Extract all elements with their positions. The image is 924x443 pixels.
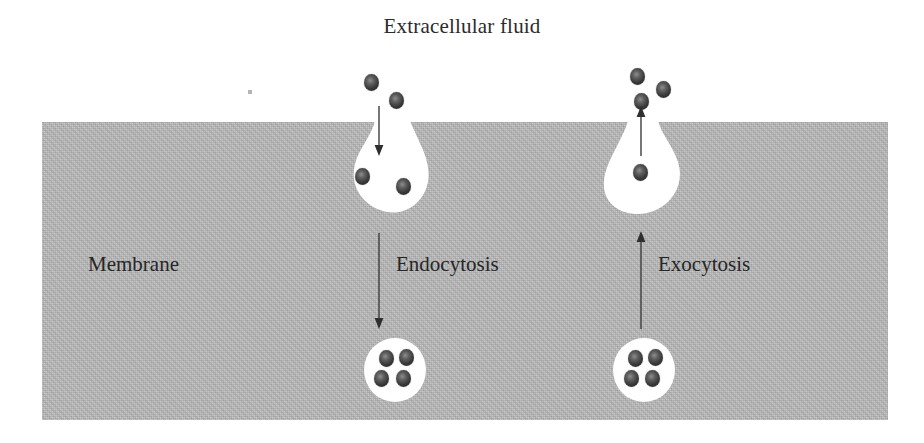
- exocytosis-long-arrow-icon: [634, 231, 648, 329]
- particle-extracellular: [630, 68, 645, 85]
- membrane-label: Membrane: [88, 252, 179, 277]
- endocytosis-short-arrow-icon: [372, 106, 386, 158]
- particle-in-vesicle: [645, 370, 660, 387]
- scan-artifact-speck: [248, 90, 252, 94]
- endocytosis-long-arrow-icon: [372, 233, 386, 331]
- particle-extracellular: [656, 81, 671, 98]
- particle-extracellular: [389, 92, 404, 109]
- particle-in-vesicle: [379, 350, 394, 367]
- endocytosis-vesicle: [364, 338, 426, 402]
- process-label-endocytosis: Endocytosis: [396, 252, 499, 277]
- particle-in-vesicle: [624, 370, 639, 387]
- particle-in-vesicle: [648, 349, 663, 366]
- endocytosis-exocytosis-diagram: Extracellular fluid Membrane: [0, 0, 924, 443]
- particle-in-vesicle: [628, 350, 643, 367]
- diagram-title: Extracellular fluid: [0, 14, 924, 39]
- exocytosis-short-arrow-icon: [634, 106, 648, 156]
- particle-in-pouch: [355, 168, 370, 185]
- particle-in-pouch: [633, 164, 648, 181]
- particle-in-vesicle: [374, 370, 389, 387]
- particle-in-vesicle: [396, 370, 411, 387]
- particle-in-vesicle: [399, 349, 414, 366]
- particle-in-pouch: [396, 178, 411, 195]
- process-label-exocytosis: Exocytosis: [658, 252, 750, 277]
- exocytosis-vesicle: [613, 338, 675, 402]
- particle-extracellular: [364, 74, 379, 91]
